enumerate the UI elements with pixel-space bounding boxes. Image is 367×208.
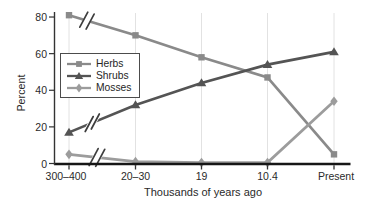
mosses-line-diamond-icon — [67, 83, 91, 93]
vegetation-percent-line-chart: Percent 0 20 40 60 80 300–400 20–30 19 1… — [0, 0, 367, 208]
y-tick-label-20: 20 — [20, 121, 47, 133]
legend-marker-sample — [76, 83, 83, 92]
marker-herbs-0 — [66, 12, 72, 18]
shrubs-line-triangle-icon — [67, 71, 91, 81]
y-tick-label-0: 0 — [20, 158, 47, 170]
x-tick-label-300-400: 300–400 — [46, 170, 87, 183]
x-tick-label-10-4: 10.4 — [257, 170, 277, 183]
y-tick-label-60: 60 — [20, 48, 47, 60]
legend-item-mosses: Mosses — [67, 82, 131, 93]
marker-mosses-0 — [65, 150, 72, 160]
legend-item-shrubs: Shrubs — [67, 70, 131, 81]
herbs-line-square-icon — [67, 59, 91, 69]
marker-herbs-3 — [264, 74, 270, 80]
legend-swatch-herbs — [67, 59, 91, 69]
legend-label-shrubs: Shrubs — [96, 70, 129, 81]
legend-item-herbs: Herbs — [67, 58, 131, 69]
x-tick-label-20-30: 20–30 — [121, 170, 150, 183]
y-tick-label-80: 80 — [20, 11, 47, 23]
legend-marker-sample — [76, 61, 82, 67]
marker-herbs-2 — [198, 54, 204, 60]
x-axis-title: Thousands of years ago — [144, 186, 262, 198]
marker-herbs-4 — [331, 151, 337, 157]
y-tick-label-40: 40 — [20, 84, 47, 96]
x-tick-label-present: Present — [318, 170, 354, 183]
marker-herbs-1 — [132, 32, 138, 38]
legend-swatch-shrubs — [67, 71, 91, 81]
legend: Herbs Shrubs Mosses — [60, 53, 140, 98]
x-tick-label-19: 19 — [196, 170, 208, 183]
legend-label-mosses: Mosses — [96, 82, 131, 93]
legend-swatch-mosses — [67, 83, 91, 93]
legend-label-herbs: Herbs — [96, 58, 123, 69]
